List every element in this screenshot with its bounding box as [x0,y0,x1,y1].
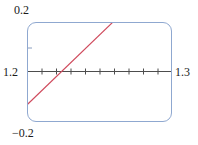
data-line-f-of-x [27,22,114,105]
x-axis-min-label: 1.2 [3,65,18,80]
x-axis-max-label: 1.3 [175,65,190,80]
chart-screenshot: 0.2 −0.2 1.2 1.3 [0,0,198,145]
y-axis-min-label: −0.2 [12,126,34,141]
plot-svg [0,0,198,145]
y-axis-max-label: 0.2 [14,3,29,18]
